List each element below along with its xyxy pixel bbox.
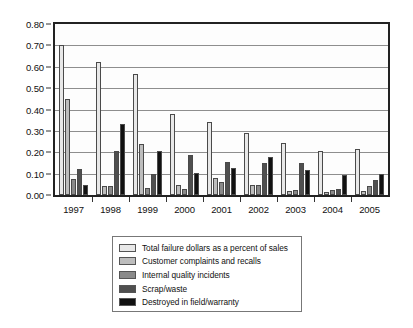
- bar: [299, 163, 304, 195]
- failure-cost-bar-chart: 0.000.100.200.300.400.500.600.700.80 199…: [0, 0, 413, 328]
- x-axis: 199719981999200020012002200320042005: [53, 197, 390, 223]
- plot-area: [53, 22, 390, 197]
- x-tick-mark: [166, 197, 167, 202]
- bar: [318, 151, 323, 195]
- x-tick-label: 2000: [174, 204, 195, 215]
- x-tick-label: 1998: [100, 204, 121, 215]
- legend-label: Total failure dollars as a percent of sa…: [142, 243, 288, 253]
- bar: [305, 170, 310, 195]
- x-tick-mark: [92, 197, 93, 202]
- y-tick-mark: [46, 45, 51, 46]
- legend-swatch: [119, 298, 136, 306]
- bar: [83, 185, 88, 195]
- x-tick-mark: [240, 197, 241, 202]
- bar: [256, 185, 261, 195]
- y-tick-mark: [46, 66, 51, 67]
- x-tick-label: 2004: [322, 204, 343, 215]
- bar: [139, 144, 144, 195]
- x-tick-label: 2005: [359, 204, 380, 215]
- legend-swatch: [119, 271, 136, 279]
- bar: [342, 175, 347, 195]
- y-tick-mark: [46, 24, 51, 25]
- y-tick-label: 0.00: [26, 190, 44, 201]
- x-tick-mark: [351, 197, 352, 202]
- bar: [213, 178, 218, 195]
- y-tick-label: 0.70: [26, 40, 44, 51]
- y-tick-label: 0.20: [26, 147, 44, 158]
- bar: [194, 173, 199, 195]
- legend-label: Scrap/waste: [142, 284, 187, 294]
- bar: [287, 191, 292, 195]
- bar: [108, 186, 113, 195]
- y-tick-mark: [46, 88, 51, 89]
- bar: [262, 163, 267, 195]
- bar: [330, 190, 335, 195]
- legend-item: Scrap/waste: [119, 282, 295, 296]
- x-tick-mark: [277, 197, 278, 202]
- legend-swatch: [119, 285, 136, 293]
- bar: [379, 174, 384, 195]
- bar: [71, 179, 76, 195]
- x-tick-mark: [314, 197, 315, 202]
- y-tick-mark: [46, 195, 51, 196]
- x-tick-label: 1997: [63, 204, 84, 215]
- bar: [225, 162, 230, 195]
- x-tick-label: 2001: [211, 204, 232, 215]
- bar-series-container: [55, 24, 388, 195]
- y-tick-label: 0.10: [26, 168, 44, 179]
- y-tick-label: 0.60: [26, 61, 44, 72]
- y-tick-label: 0.80: [26, 19, 44, 30]
- legend-label: Internal quality incidents: [142, 270, 230, 280]
- bar: [324, 192, 329, 195]
- bar: [102, 186, 107, 195]
- legend-item: Internal quality incidents: [119, 268, 295, 282]
- legend-label: Customer complaints and recalls: [142, 256, 261, 266]
- y-tick-mark: [46, 109, 51, 110]
- bar: [367, 186, 372, 195]
- bar: [355, 149, 360, 195]
- bar: [133, 74, 138, 195]
- bar: [207, 122, 212, 195]
- bar: [170, 114, 175, 195]
- bar: [157, 151, 162, 195]
- legend-item: Total failure dollars as a percent of sa…: [119, 241, 295, 255]
- y-tick-label: 0.30: [26, 125, 44, 136]
- bar: [120, 124, 125, 195]
- bar: [77, 169, 82, 195]
- bar: [250, 185, 255, 195]
- bar: [293, 190, 298, 195]
- x-tick-mark: [129, 197, 130, 202]
- y-tick-mark: [46, 152, 51, 153]
- y-tick-label: 0.40: [26, 104, 44, 115]
- legend-item: Customer complaints and recalls: [119, 255, 295, 269]
- bar: [188, 155, 193, 195]
- x-tick-label: 1999: [137, 204, 158, 215]
- bar: [182, 189, 187, 195]
- bar: [96, 62, 101, 195]
- x-tick-label: 2002: [248, 204, 269, 215]
- y-axis: 0.000.100.200.300.400.500.600.700.80: [0, 0, 53, 200]
- bar: [244, 133, 249, 195]
- bar: [151, 174, 156, 195]
- bar: [65, 99, 70, 195]
- y-tick-label: 0.50: [26, 83, 44, 94]
- bar: [361, 191, 366, 195]
- bar: [231, 168, 236, 195]
- bar: [114, 151, 119, 195]
- chart-legend: Total failure dollars as a percent of sa…: [112, 236, 302, 312]
- legend-swatch: [119, 244, 136, 252]
- y-tick-mark: [46, 130, 51, 131]
- legend-label: Destroyed in field/warranty: [142, 297, 239, 307]
- legend-item: Destroyed in field/warranty: [119, 295, 295, 309]
- bar: [219, 182, 224, 195]
- x-tick-mark: [203, 197, 204, 202]
- legend-swatch: [119, 257, 136, 265]
- bar: [336, 189, 341, 195]
- y-tick-mark: [46, 173, 51, 174]
- bar: [176, 185, 181, 195]
- bar: [281, 143, 286, 195]
- bar: [145, 188, 150, 195]
- x-tick-label: 2003: [285, 204, 306, 215]
- bar: [268, 157, 273, 195]
- bar: [373, 180, 378, 195]
